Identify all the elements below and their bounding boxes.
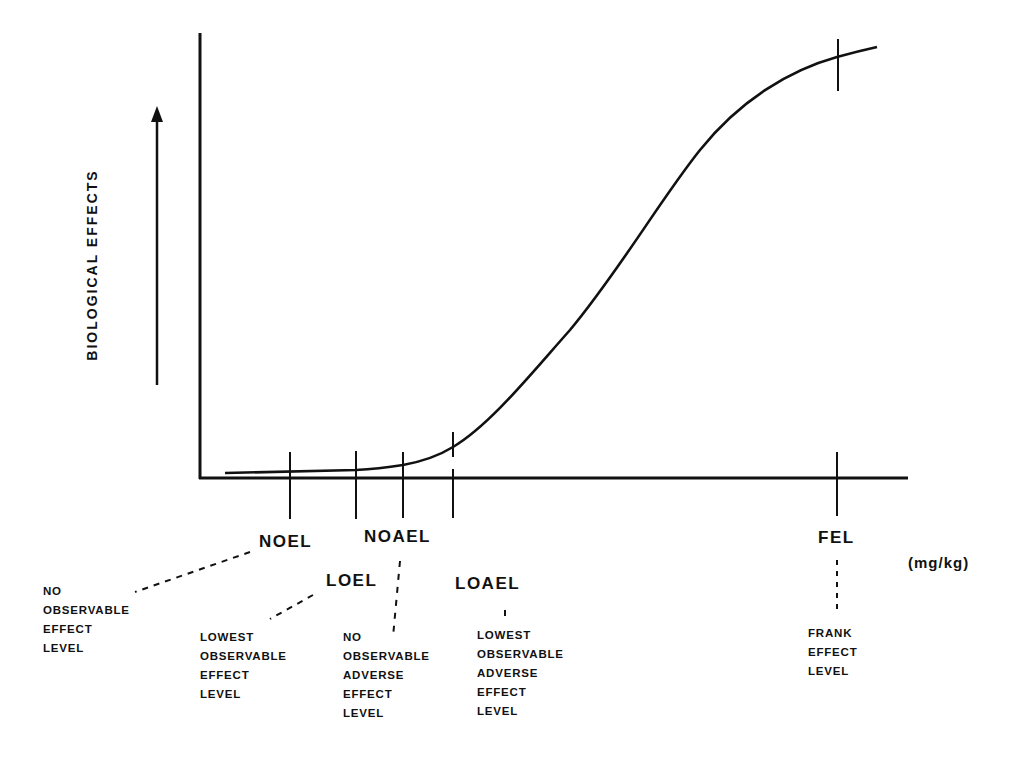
unit-label: (mg/kg) [908,554,969,571]
fel-label: FEL [818,528,855,548]
arrow-head-icon [151,106,163,122]
loel-line: OBSERVABLE [200,647,287,666]
loel-label: LOEL [326,571,377,591]
leader-noael [393,561,400,637]
loael-line: OBSERVABLE [477,645,564,664]
loael-line: LEVEL [477,702,564,721]
fel-line: EFFECT [808,643,858,662]
noael-line: LEVEL [343,704,430,723]
noael-label: NOAEL [364,527,431,547]
fel-description: FRANK EFFECT LEVEL [808,624,858,681]
loel-line: LOWEST [200,628,287,647]
noael-line: ADVERSE [343,666,430,685]
loel-description: LOWEST OBSERVABLE EFFECT LEVEL [200,628,287,704]
leader-noel [135,552,250,592]
noel-label: NOEL [259,532,312,552]
fel-line: FRANK [808,624,858,643]
fel-line: LEVEL [808,662,858,681]
loel-line: EFFECT [200,666,287,685]
loael-description: LOWEST OBSERVABLE ADVERSE EFFECT LEVEL [477,626,564,721]
loael-line: ADVERSE [477,664,564,683]
noel-line: EFFECT [43,620,130,639]
noael-line: EFFECT [343,685,430,704]
noael-line: NO [343,628,430,647]
loel-line: LEVEL [200,685,287,704]
noael-description: NO OBSERVABLE ADVERSE EFFECT LEVEL [343,628,430,723]
leader-loel [270,595,313,619]
loael-line: LOWEST [477,626,564,645]
noael-line: OBSERVABLE [343,647,430,666]
y-axis-label: BIOLOGICAL EFFECTS [84,169,100,360]
loael-line: EFFECT [477,683,564,702]
noel-line: LEVEL [43,639,130,658]
noel-line: OBSERVABLE [43,601,130,620]
loael-label: LOAEL [455,574,520,594]
noel-line: NO [43,582,130,601]
dose-response-curve [225,47,877,473]
noel-description: NO OBSERVABLE EFFECT LEVEL [43,582,130,658]
